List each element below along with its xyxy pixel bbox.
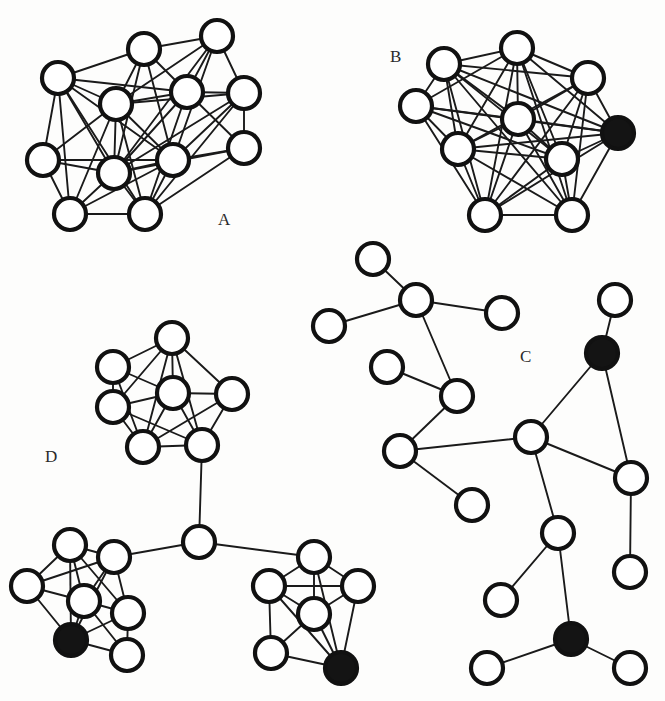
graph-node-open[interactable] — [201, 20, 233, 52]
graph-node-open[interactable] — [313, 310, 345, 342]
graph-node-open[interactable] — [357, 243, 389, 275]
graph-node-open[interactable] — [400, 284, 432, 316]
graph-node-open[interactable] — [542, 517, 574, 549]
graph-node-filled[interactable] — [325, 652, 357, 684]
graph-node-open[interactable] — [342, 570, 374, 602]
graph-node-open[interactable] — [501, 32, 533, 64]
graph-node-open[interactable] — [486, 297, 518, 329]
graph-node-open[interactable] — [471, 652, 503, 684]
graph-node-open[interactable] — [400, 90, 432, 122]
graph-node-open[interactable] — [68, 585, 100, 617]
graph-node-open[interactable] — [97, 351, 129, 383]
graph-node-open[interactable] — [456, 489, 488, 521]
graph-node-open[interactable] — [442, 133, 474, 165]
graph-node-open[interactable] — [556, 199, 588, 231]
graph-node-open[interactable] — [100, 88, 132, 120]
graph-node-open[interactable] — [157, 377, 189, 409]
graph-node-open[interactable] — [156, 322, 188, 354]
panel-label-b: B — [390, 47, 402, 66]
graph-canvas: A B C D — [0, 0, 665, 701]
figure-root: A B C D — [0, 0, 665, 701]
graph-node-open[interactable] — [485, 584, 517, 616]
graph-node-open[interactable] — [228, 77, 260, 109]
graph-node-open[interactable] — [128, 33, 160, 65]
graph-node-open[interactable] — [298, 541, 330, 573]
graph-node-open[interactable] — [502, 103, 534, 135]
graph-node-open[interactable] — [384, 435, 416, 467]
graph-node-open[interactable] — [127, 431, 159, 463]
graph-node-open[interactable] — [572, 62, 604, 94]
graph-node-open[interactable] — [112, 597, 144, 629]
graph-node-open[interactable] — [515, 421, 547, 453]
graph-node-open[interactable] — [54, 529, 86, 561]
graph-node-open[interactable] — [216, 378, 248, 410]
graph-node-open[interactable] — [614, 556, 646, 588]
graph-node-open[interactable] — [42, 62, 74, 94]
graph-node-filled[interactable] — [586, 337, 618, 369]
graph-node-open[interactable] — [228, 132, 260, 164]
panel-label-c: C — [520, 347, 532, 366]
graph-node-open[interactable] — [599, 284, 631, 316]
panel-label-a: A — [218, 210, 231, 229]
graph-node-open[interactable] — [111, 639, 143, 671]
graph-node-open[interactable] — [186, 429, 218, 461]
panel-label-d: D — [45, 447, 58, 466]
graph-edge — [400, 437, 531, 451]
graph-node-open[interactable] — [253, 570, 285, 602]
graph-node-open[interactable] — [615, 462, 647, 494]
graph-node-open[interactable] — [129, 198, 161, 230]
graph-node-open[interactable] — [11, 570, 43, 602]
graph-node-filled[interactable] — [55, 624, 87, 656]
graph-edge — [444, 64, 588, 78]
graph-node-open[interactable] — [171, 76, 203, 108]
graph-node-open[interactable] — [428, 48, 460, 80]
graph-node-open[interactable] — [441, 380, 473, 412]
graph-node-open[interactable] — [98, 157, 130, 189]
graph-node-open[interactable] — [546, 143, 578, 175]
graph-node-open[interactable] — [97, 391, 129, 423]
graph-node-open[interactable] — [255, 637, 287, 669]
graph-node-open[interactable] — [54, 198, 86, 230]
graph-node-open[interactable] — [298, 598, 330, 630]
graph-node-open[interactable] — [614, 652, 646, 684]
graph-node-open[interactable] — [98, 541, 130, 573]
graph-node-open[interactable] — [371, 351, 403, 383]
graph-node-filled[interactable] — [555, 623, 587, 655]
graph-node-open[interactable] — [27, 144, 59, 176]
nodes-layer — [11, 20, 647, 684]
graph-node-filled[interactable] — [602, 117, 634, 149]
graph-edge — [602, 353, 631, 478]
graph-node-open[interactable] — [183, 526, 215, 558]
graph-node-open[interactable] — [469, 199, 501, 231]
graph-node-open[interactable] — [157, 144, 189, 176]
